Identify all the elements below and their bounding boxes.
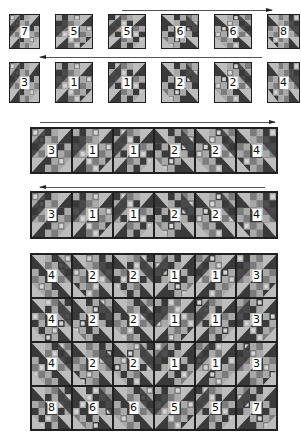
quilt-block: 8 xyxy=(267,14,300,49)
joined-strip-2: 311224 xyxy=(30,191,278,239)
block-number-label: 8 xyxy=(47,402,56,414)
block-number-label: 1 xyxy=(129,145,138,157)
quilt-block: 3 xyxy=(9,62,40,103)
quilt-top-block: 6 xyxy=(113,386,154,430)
quilt-block: 1 xyxy=(113,128,154,173)
quilt-top-block: 1 xyxy=(195,254,236,298)
block-number-label: 8 xyxy=(279,26,288,38)
block-number-label: 2 xyxy=(129,314,138,326)
joined-strip-1: 311224 xyxy=(30,127,278,174)
block-number-label: 1 xyxy=(70,77,79,89)
block-number-label: 4 xyxy=(47,314,56,326)
quilt-block: 1 xyxy=(72,192,113,238)
block-number-label: 1 xyxy=(170,358,179,370)
quilt-block: 7 xyxy=(9,14,40,49)
block-number-label: 5 xyxy=(70,26,79,38)
block-number-label: 5 xyxy=(211,402,220,414)
quilt-top-block: 4 xyxy=(31,342,72,386)
block-number-label: 1 xyxy=(211,358,220,370)
block-number-label: 2 xyxy=(170,209,179,221)
block-number-label: 1 xyxy=(88,209,97,221)
arrowhead-icon xyxy=(266,8,273,12)
strip-1-blocks: 311224 xyxy=(31,128,277,173)
quilt-top-block: 1 xyxy=(195,342,236,386)
block-number-label: 4 xyxy=(279,77,288,89)
quilt-top-block: 6 xyxy=(72,386,113,430)
block-number-label: 7 xyxy=(20,26,29,38)
block-number-label: 2 xyxy=(211,209,220,221)
quilt-block: 3 xyxy=(31,128,72,173)
block-number-label: 2 xyxy=(88,314,97,326)
quilt-top-block: 2 xyxy=(113,342,154,386)
quilt-top-block: 3 xyxy=(236,342,277,386)
quilt-top-block: 4 xyxy=(31,298,72,342)
quilt-top-block: 3 xyxy=(236,298,277,342)
quilt-block: 2 xyxy=(214,62,252,103)
arrowhead-icon xyxy=(39,55,46,59)
quilt-block: 6 xyxy=(214,14,252,49)
block-number-label: 1 xyxy=(88,145,97,157)
block-number-label: 1 xyxy=(170,270,179,282)
block-number-label: 4 xyxy=(47,358,56,370)
quilt-top-block: 5 xyxy=(154,386,195,430)
quilt-top-block: 5 xyxy=(195,386,236,430)
block-number-label: 2 xyxy=(211,145,220,157)
block-number-label: 4 xyxy=(252,209,261,221)
quilt-blocks: 422113422113422113866557 xyxy=(31,254,277,430)
direction-arrow-right xyxy=(40,122,275,123)
arrowhead-icon xyxy=(39,185,46,189)
quilt-top-block: 7 xyxy=(236,386,277,430)
quilt-block: 1 xyxy=(113,192,154,238)
quilt-block: 1 xyxy=(108,62,146,103)
quilt-block: 2 xyxy=(161,62,199,103)
block-number-label: 1 xyxy=(170,314,179,326)
block-number-label: 3 xyxy=(47,145,56,157)
block-number-label: 4 xyxy=(47,270,56,282)
direction-arrow-left xyxy=(40,57,262,58)
direction-arrow-right xyxy=(122,10,272,11)
quilt-block: 2 xyxy=(195,192,236,238)
quilt-top-block: 8 xyxy=(31,386,72,430)
block-number-label: 2 xyxy=(88,270,97,282)
assembled-quilt-top: 422113422113422113866557 xyxy=(30,253,278,431)
direction-arrow-left xyxy=(40,187,265,188)
block-number-label: 3 xyxy=(252,314,261,326)
block-number-label: 2 xyxy=(129,270,138,282)
arrowhead-icon xyxy=(269,120,276,124)
block-number-label: 3 xyxy=(47,209,56,221)
block-number-label: 2 xyxy=(170,145,179,157)
quilt-top-block: 2 xyxy=(72,342,113,386)
block-number-label: 5 xyxy=(170,402,179,414)
block-number-label: 6 xyxy=(229,26,238,38)
block-row-1: 755668 xyxy=(9,14,292,49)
block-number-label: 3 xyxy=(252,358,261,370)
block-row-2: 311224 xyxy=(9,62,292,103)
quilt-block: 4 xyxy=(236,192,277,238)
quilt-top-block: 2 xyxy=(113,254,154,298)
block-number-label: 2 xyxy=(229,77,238,89)
block-number-label: 1 xyxy=(129,209,138,221)
block-number-label: 1 xyxy=(211,314,220,326)
block-number-label: 6 xyxy=(88,402,97,414)
strip-2-blocks: 311224 xyxy=(31,192,277,238)
quilt-top-block: 1 xyxy=(154,298,195,342)
quilt-block: 2 xyxy=(195,128,236,173)
quilt-block: 4 xyxy=(267,62,300,103)
block-number-label: 7 xyxy=(252,402,261,414)
quilt-block: 3 xyxy=(31,192,72,238)
quilt-top-block: 2 xyxy=(113,298,154,342)
quilt-block: 5 xyxy=(108,14,146,49)
quilt-top-block: 1 xyxy=(154,342,195,386)
quilt-block: 1 xyxy=(55,62,93,103)
block-number-label: 2 xyxy=(129,358,138,370)
quilt-block: 2 xyxy=(154,192,195,238)
quilt-top-block: 4 xyxy=(31,254,72,298)
quilt-top-block: 2 xyxy=(72,298,113,342)
quilt-block: 2 xyxy=(154,128,195,173)
block-number-label: 3 xyxy=(252,270,261,282)
quilt-block: 6 xyxy=(161,14,199,49)
quilt-top-block: 3 xyxy=(236,254,277,298)
quilt-block: 1 xyxy=(72,128,113,173)
block-number-label: 6 xyxy=(129,402,138,414)
quilt-top-block: 2 xyxy=(72,254,113,298)
